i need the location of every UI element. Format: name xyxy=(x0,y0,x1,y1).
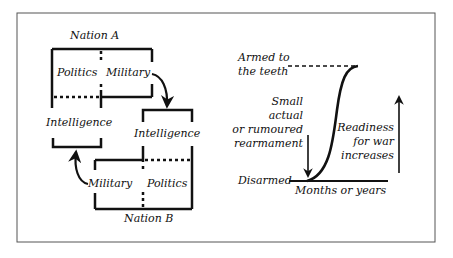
intelligence-b-bracket xyxy=(143,110,192,122)
readiness-label-line3: increases xyxy=(341,150,394,162)
intelligence-a-bracket xyxy=(53,138,101,147)
nation-b-military-label: Military xyxy=(88,178,132,190)
trigger-label-line2: actual xyxy=(269,110,303,122)
trigger-label-line4: rearmament xyxy=(234,138,303,150)
nation-a-politics-label: Politics xyxy=(57,67,97,79)
arrow-military-a-to-intelligence-b xyxy=(152,74,167,106)
nation-b-title: Nation B xyxy=(124,213,173,225)
nation-a-intelligence-label: Intelligence xyxy=(46,117,112,129)
trigger-label-line1: Small xyxy=(271,96,303,108)
arrow-military-b-to-intelligence-a xyxy=(76,152,89,184)
trigger-label-line3: or rumoured xyxy=(232,124,303,136)
readiness-label-line2: for war xyxy=(353,136,394,148)
x-axis-label: Months or years xyxy=(295,185,386,197)
nation-a-military-label: Military xyxy=(106,67,150,79)
armed-label-line1: Armed to xyxy=(238,52,290,64)
readiness-label-line1: Readiness xyxy=(337,122,394,134)
nation-b-politics-label: Politics xyxy=(147,178,187,190)
nation-b-intelligence-label: Intelligence xyxy=(134,128,200,140)
nation-a-title: Nation A xyxy=(70,30,119,42)
disarmed-label: Disarmed xyxy=(238,175,292,187)
armed-label-line2: the teeth xyxy=(238,66,288,78)
